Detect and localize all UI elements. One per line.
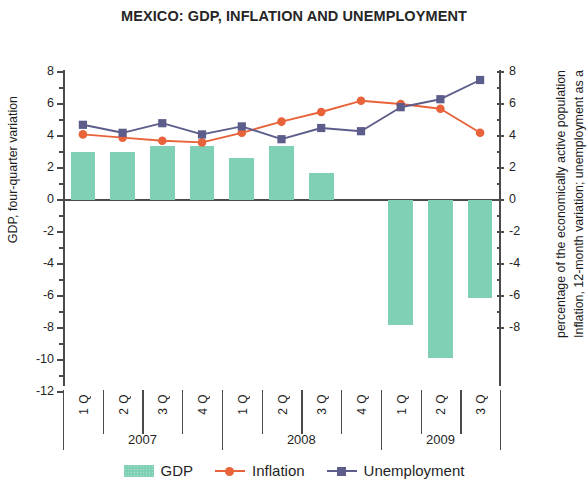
- right-tick-6: [497, 103, 504, 104]
- quarter-label-6: 3 Q: [315, 394, 329, 415]
- right-tick-4: [497, 135, 504, 136]
- legend-item-inflation[interactable]: Inflation: [215, 462, 305, 479]
- chart-container: MEXICO: GDP, INFLATION AND UNEMPLOYMENT …: [0, 0, 588, 489]
- right-tick-label--8: -8: [509, 321, 543, 334]
- legend-label-gdp: GDP: [161, 462, 194, 479]
- quarter-label-10: 3 Q: [474, 394, 488, 415]
- legend-label-inflation: Inflation: [252, 462, 305, 479]
- left-tick-4: [57, 135, 64, 136]
- bar-3Q-2007: [150, 146, 175, 200]
- year-label-2007: 2007: [63, 432, 222, 447]
- right-tick--8: [497, 327, 504, 328]
- right-axis-line: [499, 70, 501, 386]
- left-tick-label--8: -8: [20, 321, 54, 334]
- right-tick--6: [497, 295, 504, 296]
- quarter-label-9: 2 Q: [434, 394, 448, 415]
- right-tick-label-2: 2: [509, 161, 543, 174]
- inflation-point-5: [277, 117, 286, 126]
- left-tick-label--12: -12: [20, 385, 54, 398]
- unemployment-swatch-icon: [327, 465, 357, 477]
- left-axis-title: GDP, four-quarter variation: [6, 96, 20, 243]
- inflation-point-6: [317, 108, 326, 117]
- legend-label-unemployment: Unemployment: [364, 462, 465, 479]
- quarter-label-3: 4 Q: [196, 394, 210, 415]
- unemployment-point-6: [317, 124, 325, 132]
- right-tick-label-6: 6: [509, 97, 543, 110]
- left-tick--8: [57, 327, 64, 328]
- right-tick-label--2: -2: [509, 225, 543, 238]
- quarter-label-2: 3 Q: [156, 394, 170, 415]
- bar-1Q-2008: [229, 158, 254, 200]
- inflation-point-2: [158, 137, 167, 146]
- left-minor-tick: [59, 247, 63, 248]
- right-minor-tick: [497, 119, 501, 120]
- unemployment-point-7: [357, 127, 365, 135]
- left-tick-0: [57, 199, 64, 200]
- left-tick-label-8: 8: [20, 65, 54, 78]
- right-minor-tick: [497, 311, 501, 312]
- year-separator: [222, 424, 223, 450]
- year-axis-band: 200720082009: [63, 424, 501, 458]
- unemployment-point-4: [238, 122, 246, 130]
- quarter-label-7: 4 Q: [355, 394, 369, 415]
- right-tick--2: [497, 231, 504, 232]
- quarter-label-5: 2 Q: [276, 394, 290, 415]
- quarter-label-0: 1 Q: [77, 394, 91, 415]
- unemployment-point-10: [476, 76, 484, 84]
- unemployment-point-9: [436, 95, 444, 103]
- left-minor-tick: [59, 279, 63, 280]
- left-tick-label-0: 0: [20, 193, 54, 206]
- bar-2Q-2009: [428, 200, 453, 358]
- right-tick--4: [497, 263, 504, 264]
- year-label-2008: 2008: [222, 432, 381, 447]
- right-tick-label--4: -4: [509, 257, 543, 270]
- year-label-2009: 2009: [381, 432, 500, 447]
- unemployment-line-group: [79, 76, 484, 143]
- legend-item-unemployment[interactable]: Unemployment: [327, 462, 465, 479]
- left-tick--10: [57, 359, 64, 360]
- left-minor-tick: [59, 151, 63, 152]
- left-minor-tick: [59, 311, 63, 312]
- right-tick-label-8: 8: [509, 65, 543, 78]
- right-axis-title-line2: percentage of the economically active po…: [554, 70, 568, 338]
- left-tick-label-6: 6: [20, 97, 54, 110]
- gdp-swatch-icon: [124, 465, 154, 477]
- unemployment-point-0: [79, 121, 87, 129]
- left-tick-label-4: 4: [20, 129, 54, 142]
- right-tick-label--6: -6: [509, 289, 543, 302]
- inflation-point-8: [396, 100, 405, 109]
- right-tick-label-4: 4: [509, 129, 543, 142]
- unemployment-point-5: [277, 135, 285, 143]
- left-minor-tick: [59, 343, 63, 344]
- left-minor-tick: [59, 183, 63, 184]
- inflation-line-group: [79, 97, 485, 147]
- left-minor-tick: [59, 375, 63, 376]
- inflation-point-10: [476, 129, 485, 138]
- bar-2Q-2008: [269, 146, 294, 200]
- right-minor-tick: [497, 215, 501, 216]
- left-minor-tick: [59, 119, 63, 120]
- bar-1Q-2009: [388, 200, 413, 325]
- inflation-point-4: [238, 129, 247, 138]
- right-minor-tick: [497, 151, 501, 152]
- left-tick--2: [57, 231, 64, 232]
- quarter-label-4: 1 Q: [236, 394, 250, 415]
- right-tick-8: [497, 71, 504, 72]
- left-minor-tick: [59, 87, 63, 88]
- chart-legend: GDP Inflation Unemployment: [0, 462, 588, 479]
- left-tick--6: [57, 295, 64, 296]
- left-tick--4: [57, 263, 64, 264]
- left-tick-6: [57, 103, 64, 104]
- bar-3Q-2008: [309, 173, 334, 200]
- left-minor-tick: [59, 215, 63, 216]
- unemployment-point-2: [158, 119, 166, 127]
- bar-1Q-2007: [71, 152, 96, 200]
- unemployment-point-3: [198, 130, 206, 138]
- right-minor-tick: [497, 87, 501, 88]
- unemployment-point-8: [397, 103, 405, 111]
- right-axis-title-2: percentage of the economically active po…: [554, 70, 568, 338]
- left-tick-label-2: 2: [20, 161, 54, 174]
- legend-item-gdp[interactable]: GDP: [124, 462, 194, 479]
- right-minor-tick: [497, 183, 501, 184]
- left-tick-label--10: -10: [20, 353, 54, 366]
